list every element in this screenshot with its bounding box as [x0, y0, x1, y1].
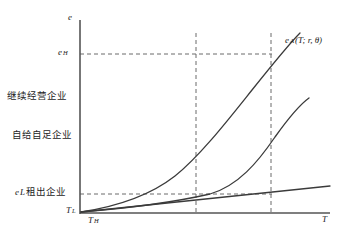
region-label-selfsufficient: 自给自足企业: [12, 130, 72, 140]
region-label-continuing: 继续经营企业: [7, 91, 67, 101]
tick-label-TH-base: T: [88, 216, 93, 225]
tick-label-TL-sub: L: [72, 208, 76, 215]
curve-label-args: (T; r, θ): [295, 36, 322, 45]
tick-label-eH-sub: H: [63, 50, 68, 57]
tick-label-eL-sub: L: [20, 188, 25, 197]
tick-label-eL-base: e: [15, 188, 19, 197]
curve-label-base: e: [285, 36, 289, 45]
curve-function-label: eA(T; r, θ): [285, 36, 322, 45]
tick-label-eH: eH: [58, 48, 68, 57]
region-label-rentout: 租出企业: [26, 187, 66, 197]
tick-label-TL: TL: [66, 206, 76, 215]
x-axis-label: T: [322, 215, 327, 224]
y-axis-label: e: [68, 13, 72, 22]
series-lower-curve: [81, 98, 309, 212]
tick-label-TH: TH: [88, 216, 99, 225]
series-upper-curve: [81, 33, 300, 212]
tick-label-eL-group: eL租出企业: [15, 187, 66, 197]
economics-diagram: e eH eL租出企业 TL TH T eA(T; r, θ) 继续经营企业 自…: [0, 0, 346, 244]
tick-label-TH-sub: H: [94, 218, 99, 225]
tick-label-eH-base: e: [58, 48, 62, 57]
tick-label-TL-base: T: [66, 206, 71, 215]
curve-label-sub: A: [290, 38, 294, 45]
